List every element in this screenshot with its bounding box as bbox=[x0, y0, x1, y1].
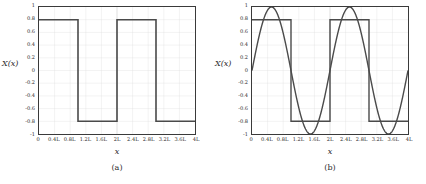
y-tick-labels-b: 1 0.8 0.6 0.4 0.2 0 -0.2 -0.4 -0.6 -0.8 … bbox=[223, 6, 248, 135]
x-tick-label: 4L bbox=[193, 137, 200, 142]
y-tick-label: -0.2 bbox=[223, 81, 248, 86]
x-tick-label: 2.4L bbox=[340, 137, 351, 142]
y-tick-label: 0.6 bbox=[10, 29, 35, 34]
y-tick-label: 1 bbox=[223, 3, 248, 8]
y-tick-label: 0.8 bbox=[10, 16, 35, 21]
panel-a: X(x) 1 0.8 0.6 0.4 0.2 0 -0.2 -0.4 -0.6 … bbox=[0, 0, 213, 184]
x-tick-labels-a: 0 0.4L 0.8L 1.2L 1.6L 2L 2.4L 2.8L 3.2L … bbox=[38, 137, 196, 147]
x-axis-label-a: x bbox=[115, 147, 120, 156]
sine-fundamental-series-b bbox=[252, 7, 408, 134]
figure-root: X(x) 1 0.8 0.6 0.4 0.2 0 -0.2 -0.4 -0.6 … bbox=[0, 0, 426, 184]
y-tick-label: 0.2 bbox=[223, 55, 248, 60]
subcaption-a: (a) bbox=[111, 163, 122, 172]
y-tick-label: -0.6 bbox=[223, 107, 248, 112]
x-tick-label: 2.8L bbox=[356, 137, 367, 142]
y-tick-label: -0.8 bbox=[10, 120, 35, 125]
x-tick-label: 0.8L bbox=[64, 137, 75, 142]
x-tick-label: 0 bbox=[36, 137, 39, 142]
y-tick-label: 0.6 bbox=[223, 29, 248, 34]
y-tick-label: -1 bbox=[223, 132, 248, 137]
x-tick-label: 1.6L bbox=[95, 137, 106, 142]
x-tick-label: 0.4L bbox=[261, 137, 272, 142]
y-tick-label: -0.2 bbox=[10, 81, 35, 86]
y-tick-label: -0.6 bbox=[10, 107, 35, 112]
y-tick-label: -0.4 bbox=[10, 94, 35, 99]
x-tick-label: 3.6L bbox=[174, 137, 185, 142]
x-tick-label: 2L bbox=[327, 137, 334, 142]
x-tick-label: 2.4L bbox=[127, 137, 138, 142]
y-tick-labels-a: 1 0.8 0.6 0.4 0.2 0 -0.2 -0.4 -0.6 -0.8 … bbox=[10, 6, 35, 135]
x-tick-label: 0.8L bbox=[277, 137, 288, 142]
subcaption-b: (b) bbox=[324, 163, 335, 172]
y-tick-label: 0.2 bbox=[10, 55, 35, 60]
y-tick-label: 0.4 bbox=[223, 42, 248, 47]
x-tick-label: 3.2L bbox=[372, 137, 383, 142]
panel-b: X(x) 1 0.8 0.6 0.4 0.2 0 -0.2 -0.4 -0.6 … bbox=[213, 0, 426, 184]
y-tick-label: -0.4 bbox=[223, 94, 248, 99]
plot-area-b bbox=[251, 6, 409, 135]
y-tick-label: 0.4 bbox=[10, 42, 35, 47]
y-tick-label: -0.8 bbox=[223, 120, 248, 125]
x-tick-label: 1.6L bbox=[308, 137, 319, 142]
x-tick-label: 3.2L bbox=[159, 137, 170, 142]
x-tick-label: 4L bbox=[406, 137, 413, 142]
x-tick-label: 1.2L bbox=[293, 137, 304, 142]
plot-area-a bbox=[38, 6, 196, 135]
square-wave-series-a bbox=[39, 7, 195, 134]
x-axis-label-b: x bbox=[328, 147, 333, 156]
x-tick-label: 0.4L bbox=[48, 137, 59, 142]
x-tick-label: 2.8L bbox=[143, 137, 154, 142]
y-tick-label: -1 bbox=[10, 132, 35, 137]
x-tick-label: 3.6L bbox=[387, 137, 398, 142]
x-tick-label: 2L bbox=[114, 137, 121, 142]
y-tick-label: 0.8 bbox=[223, 16, 248, 21]
x-tick-labels-b: 0 0.4L 0.8L 1.2L 1.6L 2L 2.4L 2.8L 3.2L … bbox=[251, 137, 409, 147]
y-tick-label: 1 bbox=[10, 3, 35, 8]
x-tick-label: 0 bbox=[249, 137, 252, 142]
y-tick-label: 0 bbox=[10, 68, 35, 73]
x-tick-label: 1.2L bbox=[80, 137, 91, 142]
y-tick-label: 0 bbox=[223, 68, 248, 73]
